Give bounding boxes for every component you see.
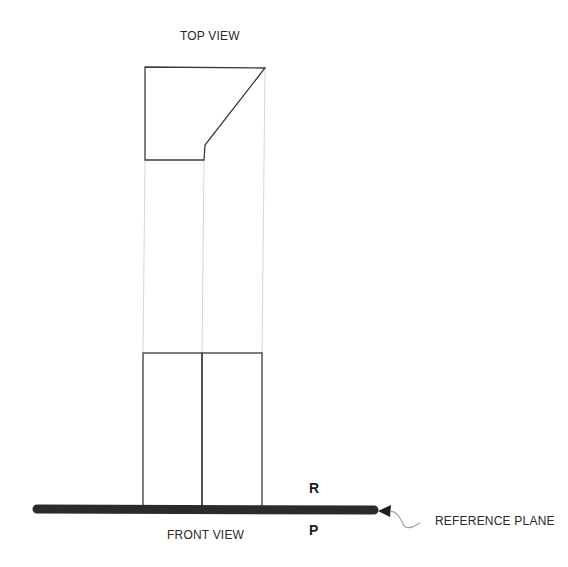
reference-plane-label: REFERENCE PLANE — [435, 514, 555, 528]
plane-label-p: P — [309, 522, 319, 538]
projection-line-left — [143, 161, 145, 353]
orthographic-projection-diagram — [0, 0, 568, 567]
front-view-label: FRONT VIEW — [167, 528, 244, 542]
top-view-outline — [145, 67, 265, 160]
arrowhead-icon — [378, 505, 391, 517]
top-view-label: TOP VIEW — [180, 29, 240, 43]
front-view-left-rect — [143, 353, 202, 508]
reference-plane-bar — [37, 509, 374, 510]
projection-line-middle — [202, 161, 204, 353]
projection-line-right — [262, 68, 265, 353]
projection-lines — [143, 68, 265, 353]
leader-squiggle — [390, 511, 420, 528]
plane-label-r: R — [309, 480, 319, 496]
front-view-right-rect — [202, 353, 262, 508]
front-view — [143, 353, 262, 508]
